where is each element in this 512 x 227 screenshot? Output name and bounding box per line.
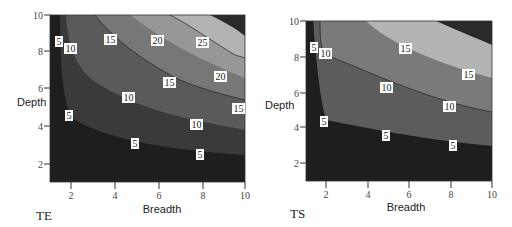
svg-text:15: 15 (106, 34, 116, 45)
svg-text:4: 4 (366, 189, 371, 200)
svg-text:6: 6 (407, 189, 412, 200)
svg-text:2: 2 (324, 189, 329, 200)
te-x-axis: 2 4 6 8 10 Breadth (69, 182, 251, 215)
svg-text:4: 4 (113, 190, 118, 201)
svg-text:6: 6 (294, 88, 299, 99)
ts-chart-svg: 5 10 15 15 10 10 5 5 5 10 8 6 4 2 Depth … (256, 0, 512, 227)
svg-text:10: 10 (66, 43, 76, 54)
svg-text:8: 8 (201, 190, 206, 201)
svg-text:Breadth: Breadth (143, 203, 182, 215)
svg-text:8: 8 (449, 189, 454, 200)
svg-text:5: 5 (451, 140, 456, 151)
svg-text:25: 25 (198, 37, 208, 48)
svg-text:Depth: Depth (265, 99, 294, 111)
te-plot-area (50, 15, 245, 182)
svg-text:15: 15 (464, 69, 474, 80)
te-y-axis: 10 8 6 4 2 Depth (17, 10, 50, 170)
svg-text:8: 8 (38, 46, 43, 57)
svg-text:15: 15 (165, 77, 175, 88)
svg-text:15: 15 (234, 103, 244, 114)
svg-text:Depth: Depth (17, 96, 46, 108)
svg-text:2: 2 (38, 159, 43, 170)
svg-text:Breadth: Breadth (387, 201, 426, 213)
svg-text:5: 5 (312, 42, 317, 53)
svg-text:10: 10 (487, 189, 497, 200)
svg-text:20: 20 (216, 71, 226, 82)
svg-text:8: 8 (294, 52, 299, 63)
svg-text:10: 10 (33, 10, 43, 21)
svg-text:20: 20 (153, 35, 163, 46)
svg-text:10: 10 (382, 82, 392, 93)
ts-contour-chart: 5 10 15 15 10 10 5 5 5 10 8 6 4 2 Depth … (256, 0, 512, 227)
svg-text:10: 10 (445, 101, 455, 112)
te-panel-label: TE (36, 208, 52, 223)
svg-text:10: 10 (289, 16, 299, 27)
svg-text:2: 2 (294, 158, 299, 169)
svg-text:5: 5 (322, 116, 327, 127)
svg-text:5: 5 (384, 130, 389, 141)
svg-text:5: 5 (198, 149, 203, 160)
svg-text:6: 6 (38, 83, 43, 94)
svg-text:15: 15 (401, 43, 411, 54)
svg-text:10: 10 (240, 190, 250, 201)
te-contour-chart: 5 10 15 20 25 15 20 10 15 5 10 5 5 10 8 … (0, 0, 256, 227)
svg-text:5: 5 (133, 138, 138, 149)
svg-text:2: 2 (69, 190, 74, 201)
ts-panel-label: TS (290, 206, 305, 221)
svg-text:10: 10 (124, 92, 134, 103)
svg-text:5: 5 (57, 36, 62, 47)
svg-text:5: 5 (67, 110, 72, 121)
ts-y-axis: 10 8 6 4 2 Depth (265, 16, 306, 169)
svg-text:10: 10 (321, 48, 331, 59)
ts-x-axis: 2 4 6 8 10 Breadth (324, 181, 498, 213)
te-chart-svg: 5 10 15 20 25 15 20 10 15 5 10 5 5 10 8 … (0, 0, 256, 227)
svg-text:6: 6 (157, 190, 162, 201)
svg-text:4: 4 (38, 121, 43, 132)
svg-text:4: 4 (294, 122, 299, 133)
svg-text:10: 10 (192, 119, 202, 130)
